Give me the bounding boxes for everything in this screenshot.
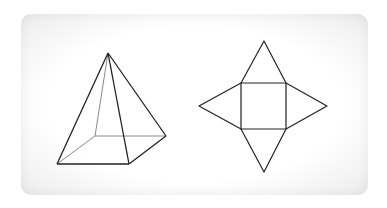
diagram-canvas <box>0 0 387 208</box>
pyramid-net-figure <box>199 41 327 172</box>
pyramid-visible-edges <box>57 53 166 164</box>
net-bottom-triangle <box>241 129 286 172</box>
net-right-triangle <box>286 83 327 129</box>
net-left-triangle <box>199 83 241 129</box>
net-square-base <box>241 83 286 129</box>
net-top-triangle <box>241 41 286 83</box>
pyramid-figure <box>57 53 166 164</box>
